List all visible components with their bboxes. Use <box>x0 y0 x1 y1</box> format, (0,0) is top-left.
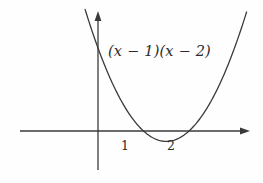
y-axis-arrowhead <box>95 11 102 21</box>
curve-equation-label: (x − 1)(x − 2) <box>108 43 211 59</box>
parabola-curve-shape <box>85 9 246 141</box>
x-axis-arrowhead <box>240 128 250 135</box>
x-tick-label-2: 2 <box>164 138 178 153</box>
x-tick-label-1: 1 <box>118 138 132 153</box>
parabola-plot-svg <box>0 0 263 183</box>
figure-canvas: (x − 1)(x − 2) 1 2 <box>0 0 263 183</box>
